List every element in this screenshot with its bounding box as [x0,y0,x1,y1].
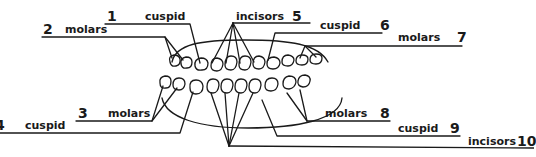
label-2-text: molars [65,24,107,35]
label-3-number: 3 [78,106,88,120]
label-9-text: cuspid [398,123,438,134]
upper-teeth [170,54,323,71]
label-4-number: 4 [0,118,5,132]
label-6-number: 6 [380,18,390,32]
label-4-text: cuspid [25,120,65,131]
label-5-number: 5 [292,9,302,23]
label-6-text: cuspid [320,20,360,31]
label-9-number: 9 [450,121,460,135]
label-8-text: molars [325,108,367,119]
lower-teeth [160,75,310,94]
label-7-number: 7 [457,30,467,44]
label-10-text: incisors [468,136,516,147]
label-7-text: molars [398,32,440,43]
label-3-text: molars [108,108,150,119]
label-8-number: 8 [380,106,390,120]
label-1-number: 1 [107,9,117,23]
label-10-number: 10 [517,134,536,148]
label-2-number: 2 [43,22,53,36]
label-1-text: cuspid [145,11,185,22]
label-5-text: incisors [236,11,284,22]
